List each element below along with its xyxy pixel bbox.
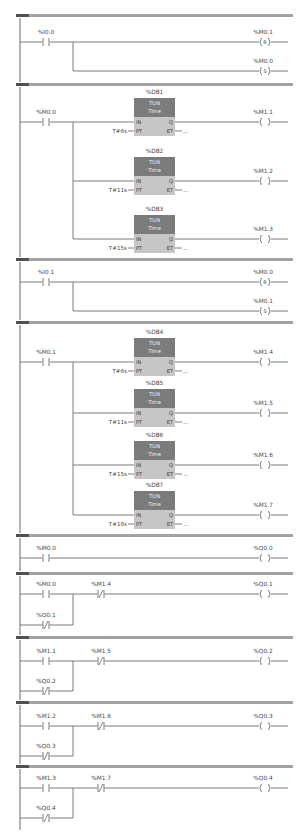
coil-address[interactable]: %M1.2 [253, 168, 273, 174]
contact-no[interactable] [43, 722, 50, 730]
timer-ton-block[interactable]: %DB7 TON Time IN PT Q ET [134, 482, 175, 529]
contact-no[interactable] [43, 278, 50, 286]
coil[interactable] [259, 554, 271, 562]
contact-no[interactable] [43, 38, 50, 46]
network-title-bar[interactable] [16, 258, 293, 261]
contact-address[interactable]: %M1.2 [36, 713, 56, 719]
contact-address[interactable]: %M1.6 [91, 713, 111, 719]
coil-set[interactable]: S [259, 67, 271, 75]
contact-address[interactable]: %Q0.3 [36, 743, 56, 749]
network-title-bar[interactable] [16, 636, 293, 639]
elapsed-output-placeholder[interactable]: ... [183, 187, 189, 193]
elapsed-output-placeholder[interactable]: ... [183, 245, 189, 251]
coil-reset[interactable]: R [259, 38, 271, 46]
coil-address[interactable]: %M1.6 [253, 452, 273, 458]
coil[interactable] [259, 722, 271, 730]
contact-address[interactable]: %Q0.1 [36, 612, 56, 618]
timer-ton-block[interactable]: %DB3 TON Time IN PT Q ET [134, 206, 175, 253]
contact-nc[interactable] [98, 722, 105, 730]
coil[interactable] [259, 409, 271, 417]
contact-no[interactable] [43, 554, 50, 562]
contact-address[interactable]: %M0.0 [36, 109, 56, 115]
contact-no[interactable] [43, 358, 50, 366]
elapsed-output-placeholder[interactable]: ... [183, 128, 189, 134]
network-header[interactable] [16, 701, 293, 704]
contact-address[interactable]: %M0.0 [36, 581, 56, 587]
contact-address[interactable]: %M1.1 [36, 648, 56, 654]
contact-address[interactable]: %I0.0 [38, 29, 55, 35]
contact-nc[interactable] [98, 784, 105, 792]
coil-reset[interactable]: R [259, 278, 271, 286]
preset-time-value[interactable]: T#6s [111, 128, 127, 134]
coil-address[interactable]: %M1.4 [253, 349, 273, 355]
timer-instance-db[interactable]: %DB4 [146, 329, 164, 335]
network-title-bar[interactable] [16, 321, 293, 324]
preset-time-value[interactable]: T#15s [108, 245, 127, 251]
coil-address[interactable]: %M1.7 [253, 502, 273, 508]
coil-address[interactable]: %M1.3 [253, 226, 273, 232]
network-title-bar[interactable] [16, 534, 293, 537]
coil[interactable] [259, 657, 271, 665]
contact-address[interactable]: %M1.4 [91, 581, 111, 587]
timer-instance-db[interactable]: %DB3 [146, 206, 164, 212]
preset-time-value[interactable]: T#15s [108, 471, 127, 477]
timer-ton-block[interactable]: %DB1 TON Time IN PT Q ET [134, 89, 175, 136]
coil[interactable] [259, 177, 271, 185]
timer-instance-db[interactable]: %DB6 [146, 432, 164, 438]
contact-address[interactable]: %M1.7 [91, 775, 111, 781]
contact-address[interactable]: %M1.5 [91, 648, 111, 654]
contact-no[interactable] [43, 657, 50, 665]
contact-nc[interactable] [98, 590, 105, 598]
coil[interactable] [259, 235, 271, 243]
coil-address[interactable]: %M0.1 [253, 29, 273, 35]
contact-nc[interactable] [43, 687, 50, 695]
network-header[interactable] [16, 765, 293, 768]
contact-nc[interactable] [43, 621, 50, 629]
network-header[interactable] [16, 83, 293, 86]
contact-no[interactable] [43, 784, 50, 792]
coil[interactable] [259, 118, 271, 126]
coil[interactable] [259, 461, 271, 469]
network-title-bar[interactable] [16, 701, 293, 704]
contact-address[interactable]: %I0.1 [38, 269, 55, 275]
preset-time-value[interactable]: T#6s [111, 368, 127, 374]
network-title-bar[interactable] [16, 765, 293, 768]
network-header[interactable] [16, 321, 293, 324]
coil-address[interactable]: %M0.0 [253, 58, 273, 64]
network-header[interactable] [16, 534, 293, 537]
preset-time-value[interactable]: T#11s [108, 419, 127, 425]
coil[interactable] [259, 358, 271, 366]
network-title-bar[interactable] [16, 572, 293, 575]
coil[interactable] [259, 511, 271, 519]
elapsed-output-placeholder[interactable]: ... [183, 521, 189, 527]
contact-address[interactable]: %M1.3 [36, 775, 56, 781]
contact-no[interactable] [43, 590, 50, 598]
preset-time-value[interactable]: T#18s [108, 521, 127, 527]
network-header[interactable] [16, 572, 293, 575]
timer-instance-db[interactable]: %DB7 [146, 482, 164, 488]
timer-instance-db[interactable]: %DB2 [146, 148, 164, 154]
contact-address[interactable]: %M0.1 [36, 349, 56, 355]
coil-address[interactable]: %Q0.0 [253, 545, 273, 551]
elapsed-output-placeholder[interactable]: ... [183, 368, 189, 374]
contact-address[interactable]: %M0.0 [36, 545, 56, 551]
contact-address[interactable]: %Q0.2 [36, 678, 56, 684]
contact-nc[interactable] [43, 814, 50, 822]
coil[interactable] [259, 590, 271, 598]
timer-ton-block[interactable]: %DB5 TON Time IN PT Q ET [134, 380, 175, 427]
coil[interactable] [259, 784, 271, 792]
contact-no[interactable] [43, 118, 50, 126]
coil-address[interactable]: %Q0.1 [253, 581, 273, 587]
coil-address[interactable]: %Q0.4 [253, 775, 273, 781]
preset-time-value[interactable]: T#11s [108, 187, 127, 193]
coil-address[interactable]: %Q0.2 [253, 648, 273, 654]
contact-address[interactable]: %Q0.4 [36, 805, 56, 811]
coil-address[interactable]: %M1.5 [253, 400, 273, 406]
coil-address[interactable]: %M1.1 [253, 109, 273, 115]
timer-ton-block[interactable]: %DB2 TON Time IN PT Q ET [134, 148, 175, 195]
elapsed-output-placeholder[interactable]: ... [183, 471, 189, 477]
coil-set[interactable]: S [259, 307, 271, 315]
network-header[interactable] [16, 14, 293, 17]
network-title-bar[interactable] [16, 83, 293, 86]
coil-address[interactable]: %M0.0 [253, 269, 273, 275]
